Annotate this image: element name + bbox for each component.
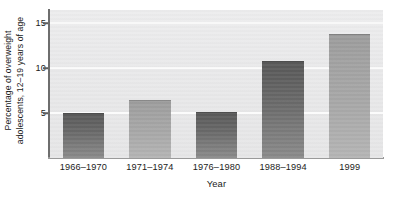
bar: [329, 34, 370, 158]
x-tick-label: 1988–1994: [259, 162, 306, 172]
bar: [196, 112, 237, 158]
bar-chart-figure: Percentage of overweight adolescents, 12…: [0, 0, 393, 198]
x-axis-title: Year: [50, 178, 383, 189]
y-axis-tick-labels: 5 10 15: [28, 0, 46, 198]
x-tick-label: 1999: [339, 162, 360, 172]
bar: [63, 113, 104, 158]
bar: [262, 61, 303, 158]
gridline: [50, 22, 383, 24]
x-tick-label: 1976–1980: [193, 162, 240, 172]
bar: [129, 100, 170, 158]
y-axis-title: Percentage of overweight adolescents, 12…: [0, 0, 30, 160]
y-axis-title-line-2: adolescents, 12–19 years of age: [15, 16, 27, 143]
x-tick-label: 1966–1970: [60, 162, 107, 172]
y-axis-title-line-1: Percentage of overweight: [4, 16, 16, 143]
x-tick-label: 1971–1974: [126, 162, 173, 172]
plot-area: [50, 10, 383, 158]
